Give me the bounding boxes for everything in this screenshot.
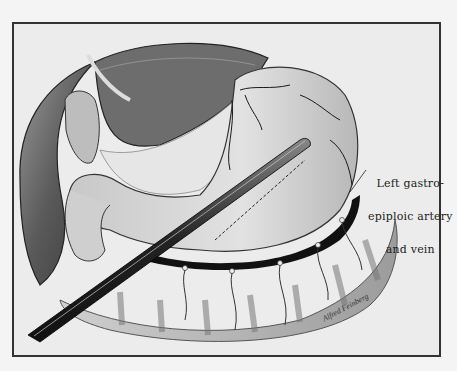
label-line-1: Left gastro-	[368, 178, 453, 189]
vessel-label: Left gastro- epiploic artery and vein	[368, 156, 453, 266]
label-line-3: and vein	[368, 244, 453, 255]
label-line-2: epiploic artery	[368, 211, 453, 222]
gallbladder	[65, 91, 99, 163]
